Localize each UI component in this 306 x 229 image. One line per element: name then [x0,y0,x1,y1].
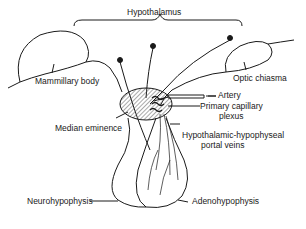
hypothalamus-pituitary-diagram: Hypothalamus Mammillary body Optic chias… [0,0,306,229]
hypothalamus-label: Hypothalamus [127,8,181,17]
primary-capillary-plexus-label-line2: plexus [219,112,244,121]
adenohypophysis-label: Adenohypophysis [192,197,259,206]
mammillary-body-label: Mammillary body [35,77,99,86]
diagram-drawing [0,0,306,229]
artery-label: Artery [218,91,241,100]
portal-veins-label-line1: Hypothalamic-hypophyseal [182,131,284,140]
optic-chiasma-outline [225,41,272,72]
primary-capillary-plexus-label-line1: Primary capillary [200,102,263,111]
optic-chiasma-label: Optic chiasma [233,74,287,83]
mammillary-body-outline [18,31,88,82]
median-eminence-label: Median eminence [55,124,122,133]
neurohypophysis-label: Neurohypophysis [27,197,93,206]
adenohypophysis-outline [136,118,187,208]
artery [168,95,204,98]
portal-veins-label-line2: portal veins [201,141,244,150]
